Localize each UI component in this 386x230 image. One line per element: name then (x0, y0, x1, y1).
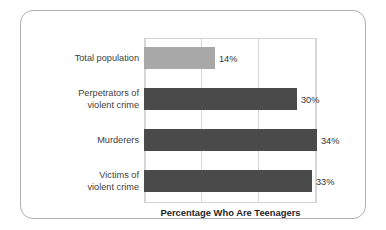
category-label-perpetrators-of-violent-crime: Perpetrators of violent crime (29, 79, 139, 120)
category-label-total-population: Total population (29, 38, 139, 79)
bar-row-total-population: Total population 14% (21, 38, 386, 79)
category-label-victims-of-violent-crime: Victims of violent crime (29, 161, 139, 202)
bar-row-victims-of-violent-crime: Victims of violent crime 33% (21, 161, 386, 202)
value-label-victims-of-violent-crime: 33% (316, 161, 334, 202)
value-label-perpetrators-of-violent-crime: 30% (301, 79, 319, 120)
value-label-total-population: 14% (219, 38, 237, 79)
value-label-murderers: 34% (321, 120, 339, 161)
bar-total-population[interactable] (144, 47, 215, 69)
bar-victims-of-violent-crime[interactable] (144, 170, 312, 192)
category-label-murderers: Murderers (29, 120, 139, 161)
bar-row-murderers: Murderers 34% (21, 120, 386, 161)
bar-row-perpetrators-of-violent-crime: Perpetrators of violent crime 30% (21, 79, 386, 120)
chart-figure-frame: Total population 14% Perpetrators of vio… (20, 10, 366, 219)
bar-murderers[interactable] (144, 129, 317, 151)
bar-perpetrators-of-violent-crime[interactable] (144, 88, 297, 110)
x-axis-title: Percentage Who Are Teenagers (144, 207, 317, 218)
